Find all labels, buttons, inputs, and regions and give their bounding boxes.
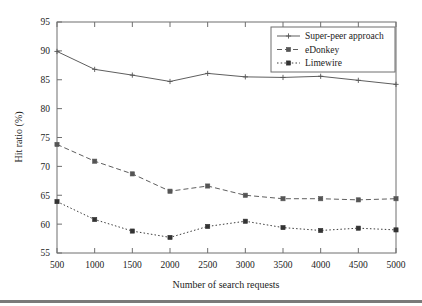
hit-ratio-line-chart: 556065707580859095 500100015002000250030… <box>0 0 422 306</box>
y-tick-label: 75 <box>41 133 51 143</box>
y-tick-label: 80 <box>41 104 51 114</box>
y-axis-tick-labels: 556065707580859095 <box>41 17 51 258</box>
data-point-marker <box>319 228 323 232</box>
data-point-marker <box>55 200 59 204</box>
data-point-marker <box>93 159 97 163</box>
y-axis-title: Hit ratio (%) <box>13 111 25 162</box>
x-tick-label: 500 <box>50 260 65 270</box>
data-point-marker <box>55 142 59 146</box>
x-axis-title: Number of search requests <box>173 279 280 290</box>
data-point-marker <box>281 197 285 201</box>
data-point-marker <box>206 224 210 228</box>
x-tick-label: 4000 <box>311 260 330 270</box>
chart-legend: Super-peer approacheDonkeyLimewire <box>271 27 395 72</box>
data-point-marker <box>356 226 360 230</box>
y-tick-label: 95 <box>41 17 51 27</box>
page-rule <box>0 300 422 303</box>
y-tick-label: 60 <box>41 220 51 230</box>
x-tick-label: 2000 <box>161 260 180 270</box>
data-point-marker <box>206 184 210 188</box>
data-point-marker <box>168 235 172 239</box>
legend-label: Limewire <box>305 58 342 68</box>
x-tick-label: 3500 <box>274 260 293 270</box>
data-point-marker <box>286 61 290 65</box>
y-tick-label: 55 <box>41 248 51 258</box>
legend-label: eDonkey <box>305 45 340 55</box>
x-tick-label: 5000 <box>387 260 406 270</box>
data-point-marker <box>243 219 247 223</box>
x-tick-label: 2500 <box>198 260 217 270</box>
data-point-marker <box>243 193 247 197</box>
x-tick-label: 4500 <box>349 260 368 270</box>
data-point-marker <box>394 228 398 232</box>
y-tick-label: 65 <box>41 191 51 201</box>
y-tick-label: 85 <box>41 75 51 85</box>
data-point-marker <box>286 47 290 51</box>
y-tick-label: 70 <box>41 162 51 172</box>
y-tick-label: 90 <box>41 46 51 56</box>
legend-label: Super-peer approach <box>305 31 384 41</box>
data-point-marker <box>93 217 97 221</box>
data-point-marker <box>356 198 360 202</box>
data-point-marker <box>281 225 285 229</box>
data-point-marker <box>168 189 172 193</box>
figure-container: 556065707580859095 500100015002000250030… <box>0 0 422 306</box>
data-point-marker <box>130 172 134 176</box>
x-tick-label: 3000 <box>236 260 255 270</box>
data-point-marker <box>319 197 323 201</box>
x-tick-label: 1500 <box>123 260 142 270</box>
data-point-marker <box>130 229 134 233</box>
x-tick-label: 1000 <box>85 260 104 270</box>
data-point-marker <box>394 197 398 201</box>
